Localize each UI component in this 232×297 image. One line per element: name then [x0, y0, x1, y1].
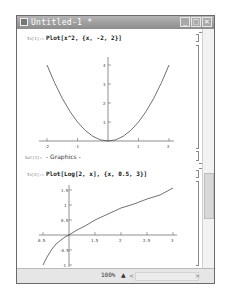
svg-text:1: 1 [103, 120, 106, 125]
svg-text:4: 4 [103, 63, 106, 68]
svg-text:1.5: 1.5 [61, 188, 69, 193]
notebook-window: Untitled-1 * _ □ ✕ In[1]:= Plot[x^2, {x,… [16, 15, 215, 284]
horizontal-scrollbar[interactable] [135, 272, 199, 281]
title-bar[interactable]: Untitled-1 * _ □ ✕ [17, 16, 214, 29]
status-bar: 100% ▲ < > [17, 268, 214, 283]
scrollbar-thumb[interactable] [204, 173, 214, 219]
svg-text:-1: -1 [74, 144, 79, 149]
svg-text:1.5: 1.5 [91, 238, 99, 243]
zoom-menu-arrow-icon[interactable]: ▲ [121, 271, 126, 278]
input-label: In[2]:= [27, 172, 44, 177]
svg-text:2: 2 [103, 101, 106, 106]
plot-log2: 0.5 1.5 2 2.5 3 -1 -0.5 0.5 1 1.5 [17, 179, 203, 279]
vertical-scrollbar[interactable] [202, 29, 214, 269]
notebook-icon [20, 18, 28, 26]
notebook-content[interactable]: In[1]:= Plot[x^2, {x, -2, 2}] -2 -1 1 2 … [17, 29, 203, 269]
scroll-left-icon[interactable]: < [129, 272, 134, 279]
zoom-level[interactable]: 100% [101, 271, 115, 278]
maximize-button[interactable]: □ [191, 17, 201, 27]
svg-text:-0.5: -0.5 [59, 248, 69, 253]
close-button[interactable]: ✕ [202, 17, 212, 27]
svg-text:3: 3 [171, 238, 174, 243]
scroll-right-icon[interactable]: > [195, 272, 200, 279]
svg-text:2.5: 2.5 [143, 238, 151, 243]
input-code[interactable]: Plot[Log[2, x], {x, 0.5, 3}] [46, 170, 147, 177]
svg-text:1: 1 [137, 144, 140, 149]
svg-text:2: 2 [167, 144, 170, 149]
plot-parabola: -2 -1 1 2 1 2 3 4 [17, 29, 203, 154]
svg-text:1: 1 [64, 203, 67, 208]
x-tick: -2 [44, 144, 49, 149]
svg-text:2: 2 [119, 238, 122, 243]
svg-text:3: 3 [103, 82, 106, 87]
output-graphics: - Graphics - [46, 153, 81, 160]
window-title: Untitled-1 * [31, 17, 92, 28]
minimize-button[interactable]: _ [180, 17, 190, 27]
svg-text:0.5: 0.5 [38, 238, 46, 243]
output-label: Out[1]= [25, 155, 42, 160]
svg-text:0.5: 0.5 [61, 218, 69, 223]
